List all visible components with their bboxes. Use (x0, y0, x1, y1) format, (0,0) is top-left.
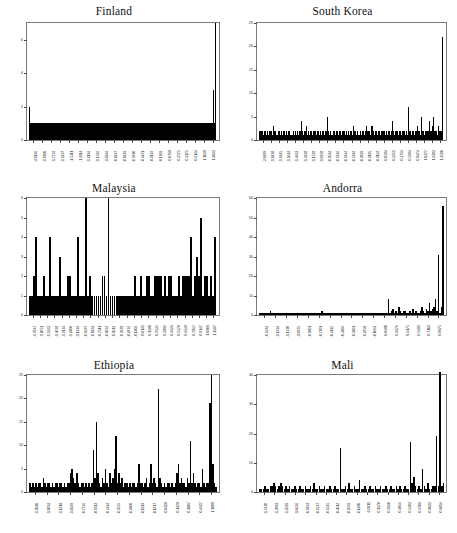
x-tick: 0.2251 (388, 140, 396, 176)
y-tick-label: 0 (251, 490, 257, 494)
x-tick-label: 0.0211 (367, 502, 371, 512)
x-tick: -0.3124 (145, 140, 154, 176)
x-tick: 1.1008 (205, 492, 217, 528)
x-tick: -0.1480 (352, 492, 362, 528)
x-tick-label: -1.1720 (286, 326, 290, 338)
x-tick: -0.4744 (100, 492, 112, 528)
y-tick-label: 5 (21, 467, 27, 471)
y-tick-label: 40 (249, 235, 257, 239)
x-tick: -0.6344 (339, 140, 347, 176)
panel-title-ethiopia: Ethiopia (0, 354, 228, 372)
y-tick-label: 0 (251, 313, 257, 317)
x-tick: -0.5913 (88, 492, 100, 528)
x-tick: -1.6051 (36, 315, 43, 351)
x-tick: 0.2545 (152, 315, 159, 351)
plot-area-ethiopia: 0510152025 -1.3040-1.0093-1.1318-1.0249-… (26, 374, 220, 493)
x-tick-label: 0.0418 (164, 502, 168, 512)
figure-panel-grid: Finland 0246 -2.0196-1.8700-1.7774-1.623… (0, 0, 457, 533)
x-tick-label: -1.5311 (69, 151, 73, 162)
panel-title-andorra: Andorra (228, 177, 457, 195)
x-tick: -2.0196 (29, 140, 38, 176)
x-tick-label: -1.0249 (70, 503, 74, 515)
x-tick: -0.1168 (372, 140, 380, 176)
x-tick-label: -0.6990 (132, 151, 136, 163)
y-axis-andorra: 0102030405060 (231, 198, 257, 315)
x-tick: -1.1720 (281, 315, 292, 351)
x-tick-label: 0.8032 (429, 502, 433, 512)
x-tick: -0.2474 (123, 315, 130, 351)
x-tick: 0.4175 (400, 315, 411, 351)
x-tick: -1.0093 (41, 492, 53, 528)
y-tick-label: 40 (249, 373, 257, 377)
x-tick: -1.4423 (291, 140, 299, 176)
x-tick: -1.8700 (38, 140, 47, 176)
y-tick-label: 15 (249, 68, 257, 72)
x-tick: 0.8474 (412, 140, 420, 176)
y-tick-label: 0 (21, 138, 27, 142)
x-tick-label: -0.3655 (117, 503, 121, 515)
plot-area-south-korea: 0510152025 -2.0289-1.8438-1.6945-1.5042-… (256, 22, 447, 141)
bar-series-mali (259, 375, 444, 492)
x-tick-label: 0.2476 (395, 325, 399, 335)
y-tick-label: 0 (251, 138, 257, 142)
x-tick-label: -0.1913 (141, 503, 145, 515)
x-tick: 0.7103 (422, 315, 433, 351)
y-tick-label: 10 (19, 443, 27, 447)
x-tick-label: 0.2775 (177, 150, 181, 160)
x-tick: 0.5682 (411, 315, 422, 351)
x-tick-label: 0.1670 (377, 502, 381, 512)
x-tick: 0.5984 (404, 140, 412, 176)
x-tick: 1.0277 (420, 140, 428, 176)
y-axis-malaysia: 0123456 (1, 198, 27, 315)
x-axis-ethiopia: -1.3040-1.0093-1.1318-1.0249-0.7736-0.59… (29, 492, 217, 528)
x-axis-andorra: -0.5684-1.1494-1.1720-1.0875-0.9801-0.77… (259, 315, 444, 351)
x-tick: 0.6709 (413, 492, 423, 528)
x-tick-label: -0.7736 (82, 503, 86, 515)
x-tick: -0.3655 (111, 492, 123, 528)
panel-andorra: Andorra 0102030405060 -0.5684-1.1494-1.1… (228, 177, 457, 354)
x-tick: 1.2382 (428, 140, 436, 176)
x-tick: -0.9584 (323, 140, 331, 176)
x-tick: -1.3883 (269, 492, 279, 528)
x-tick-label: -1.3040 (35, 503, 39, 515)
x-tick: -0.2400 (123, 492, 135, 528)
x-tick-label: 1.1587 (213, 325, 217, 335)
x-tick-label: -0.2258 (362, 326, 366, 338)
y-tick-label: 10 (249, 294, 257, 298)
x-tick-label: -0.9801 (308, 326, 312, 338)
x-axis-malaysia: -1.7847-1.6051-1.5363-1.4078-1.3174-1.24… (29, 315, 217, 351)
y-tick-label: 5 (251, 115, 257, 119)
x-tick-label: 0.5282 (408, 502, 412, 512)
x-tick-label: -0.9247 (114, 151, 118, 163)
x-tick-label: -0.7701 (319, 326, 323, 338)
x-tick: -1.6237 (56, 140, 65, 176)
x-tick: -1.6945 (275, 140, 283, 176)
x-tick-label: -0.1063 (373, 326, 377, 338)
x-tick: -2.0289 (259, 140, 267, 176)
bar (340, 448, 342, 492)
panel-mali: Mali 010203040 -1.6730-1.3883-1.2589-1.0… (228, 354, 457, 533)
x-tick-label: 0.3007 (188, 502, 192, 512)
x-tick-label: -1.7774 (51, 151, 55, 163)
x-tick: 0.1670 (372, 492, 382, 528)
x-tick-label: 1.1048 (204, 150, 208, 160)
x-tick-label: -0.4421 (141, 151, 145, 163)
panel-title-mali: Mali (228, 354, 457, 372)
x-tick: 0.5282 (403, 492, 413, 528)
x-tick: -1.0244 (101, 140, 110, 176)
x-tick: -0.5684 (259, 315, 270, 351)
x-tick: -1.2184 (83, 140, 92, 176)
panel-ethiopia: Ethiopia 0510152025 -1.3040-1.0093-1.131… (0, 354, 228, 533)
x-tick: -0.1417 (147, 492, 159, 528)
x-tick-label: 1.3580 (440, 150, 444, 160)
y-tick-label: 20 (249, 274, 257, 278)
x-tick: -0.7547 (310, 492, 320, 528)
panel-south-korea: South Korea 0510152025 -2.0289-1.8438-1.… (228, 0, 457, 177)
y-tick-label: 25 (249, 21, 257, 25)
x-tick-label: 1.1008 (211, 502, 215, 512)
x-tick-label: -1.2184 (87, 151, 91, 163)
x-tick: 1.3580 (436, 140, 444, 176)
y-tick-label: 20 (249, 432, 257, 436)
x-tick: -1.6730 (259, 492, 269, 528)
x-tick: 0.8975 (433, 315, 444, 351)
